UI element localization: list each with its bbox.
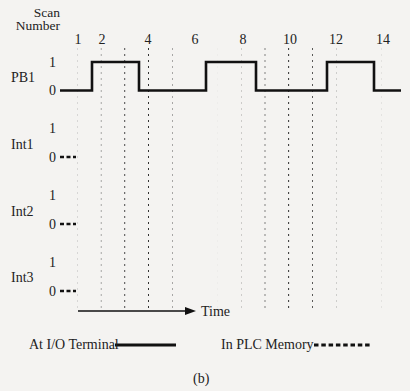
time-arrow-icon — [78, 307, 196, 315]
pb1-waveform — [60, 62, 401, 91]
time-axis-label: Time — [201, 305, 230, 319]
timing-diagram — [0, 0, 410, 391]
figure-caption: (b) — [193, 372, 209, 386]
legend-io-terminal-label: At I/O Terminal — [29, 338, 119, 352]
scan-gridlines — [78, 48, 384, 308]
legend-plc-memory-label: In PLC Memory — [221, 338, 314, 352]
